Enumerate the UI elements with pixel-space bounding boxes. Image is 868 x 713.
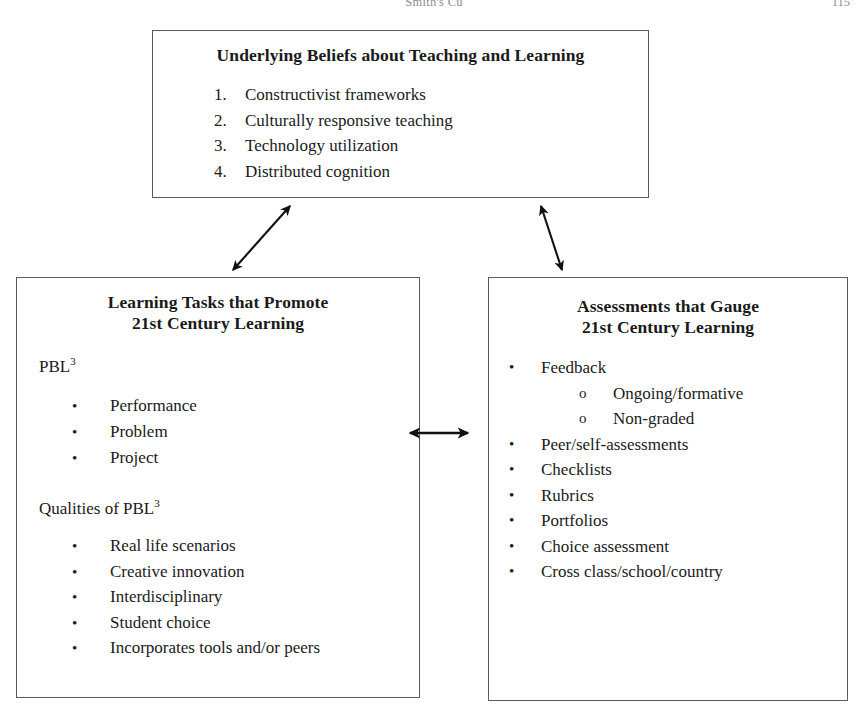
list-item-label: Rubrics bbox=[541, 486, 594, 505]
title-line-2: 21st Century Learning bbox=[132, 313, 304, 333]
sub-list-item: o Non-graded bbox=[579, 406, 847, 432]
pbl-superscript: 3 bbox=[70, 355, 76, 367]
list-item: Culturally responsive teaching bbox=[231, 108, 648, 134]
title-line-2: 21st Century Learning bbox=[582, 317, 754, 337]
bullet-icon: • bbox=[509, 559, 514, 585]
bullet-icon: • bbox=[509, 355, 514, 381]
qualities-label: Qualities of PBL3 bbox=[39, 498, 419, 519]
beliefs-to-tasks-arrow bbox=[233, 206, 290, 270]
pbl-list: • Performance • Problem • Project bbox=[17, 393, 419, 471]
qualities-list: • Real life scenarios • Creative innovat… bbox=[17, 533, 419, 661]
list-item-label: Incorporates tools and/or peers bbox=[110, 638, 320, 657]
list-item-label: Checklists bbox=[541, 460, 612, 479]
hollow-bullet-icon: o bbox=[579, 381, 587, 407]
list-item: • Choice assessment bbox=[509, 534, 847, 560]
bullet-icon: • bbox=[509, 457, 514, 483]
bullet-icon: • bbox=[72, 559, 77, 585]
beliefs-to-assessments-arrow bbox=[541, 206, 562, 270]
pbl-label-text: PBL bbox=[39, 357, 70, 376]
sub-list-item-label: Non-graded bbox=[613, 409, 694, 428]
list-item: • Real life scenarios bbox=[72, 533, 419, 559]
list-item-label: Portfolios bbox=[541, 511, 608, 530]
list-item-label: Student choice bbox=[110, 613, 211, 632]
qualities-superscript: 3 bbox=[154, 497, 160, 509]
beliefs-box-title: Underlying Beliefs about Teaching and Le… bbox=[153, 45, 648, 66]
bullet-icon: • bbox=[509, 432, 514, 458]
list-item-label: Real life scenarios bbox=[110, 536, 236, 555]
bullet-icon: • bbox=[72, 445, 77, 471]
list-item: • Project bbox=[72, 445, 419, 471]
beliefs-list: Constructivist frameworks Culturally res… bbox=[153, 82, 648, 184]
list-item: • Peer/self-assessments bbox=[509, 432, 847, 458]
assessments-box-title: Assessments that Gauge 21st Century Lear… bbox=[489, 296, 847, 338]
list-item-label: Performance bbox=[110, 396, 197, 415]
qualities-label-text: Qualities of PBL bbox=[39, 499, 154, 518]
list-item: Distributed cognition bbox=[231, 159, 648, 185]
hollow-bullet-icon: o bbox=[579, 406, 587, 432]
bullet-icon: • bbox=[72, 419, 77, 445]
bullet-icon: • bbox=[72, 393, 77, 419]
pbl-label: PBL3 bbox=[39, 356, 419, 377]
title-line-1: Learning Tasks that Promote bbox=[108, 292, 329, 312]
bullet-icon: • bbox=[509, 508, 514, 534]
title-line-1: Assessments that Gauge bbox=[577, 296, 759, 316]
sub-list-item-label: Ongoing/formative bbox=[613, 384, 743, 403]
running-head-title: Smith's Cu bbox=[0, 0, 868, 9]
list-item-label: Peer/self-assessments bbox=[541, 435, 688, 454]
list-item-label: Creative innovation bbox=[110, 562, 245, 581]
list-item: • Performance bbox=[72, 393, 419, 419]
learning-tasks-box: Learning Tasks that Promote 21st Century… bbox=[16, 277, 420, 698]
list-item: • Incorporates tools and/or peers bbox=[72, 635, 419, 661]
list-item: • Creative innovation bbox=[72, 559, 419, 585]
bullet-icon: • bbox=[509, 534, 514, 560]
list-item-label: Choice assessment bbox=[541, 537, 669, 556]
bullet-icon: • bbox=[72, 533, 77, 559]
list-item-label: Cross class/school/country bbox=[541, 562, 723, 581]
list-item: Constructivist frameworks bbox=[231, 82, 648, 108]
list-item: • Student choice bbox=[72, 610, 419, 636]
list-item: • Interdisciplinary bbox=[72, 584, 419, 610]
list-item-label: Interdisciplinary bbox=[110, 587, 222, 606]
list-item-label: Feedback bbox=[541, 358, 606, 377]
bullet-icon: • bbox=[509, 483, 514, 509]
list-item: • Rubrics bbox=[509, 483, 847, 509]
list-item: • Cross class/school/country bbox=[509, 559, 847, 585]
bullet-icon: • bbox=[72, 584, 77, 610]
learning-tasks-box-title: Learning Tasks that Promote 21st Century… bbox=[17, 292, 419, 334]
list-item: • Checklists bbox=[509, 457, 847, 483]
bullet-icon: • bbox=[72, 635, 77, 661]
list-item: Technology utilization bbox=[231, 133, 648, 159]
beliefs-box: Underlying Beliefs about Teaching and Le… bbox=[152, 30, 649, 198]
feedback-sub-list: o Ongoing/formative o Non-graded bbox=[541, 381, 847, 432]
sub-list-item: o Ongoing/formative bbox=[579, 381, 847, 407]
list-item-label: Problem bbox=[110, 422, 168, 441]
page-number: 115 bbox=[832, 0, 850, 9]
list-item: • Feedback o Ongoing/formative o Non-gra… bbox=[509, 355, 847, 432]
list-item: • Problem bbox=[72, 419, 419, 445]
running-head: Smith's Cu 115 bbox=[0, 0, 868, 9]
list-item: • Portfolios bbox=[509, 508, 847, 534]
list-item-label: Project bbox=[110, 448, 158, 467]
bullet-icon: • bbox=[72, 610, 77, 636]
assessments-box: Assessments that Gauge 21st Century Lear… bbox=[488, 277, 848, 701]
assessments-list: • Feedback o Ongoing/formative o Non-gra… bbox=[489, 355, 847, 585]
